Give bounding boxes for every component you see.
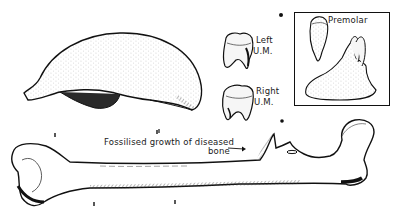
reference-dot bbox=[280, 119, 284, 123]
reference-dot bbox=[279, 13, 283, 17]
growth-label-line2: bone bbox=[208, 146, 230, 156]
femur-drawing bbox=[12, 120, 374, 206]
skullcap-drawing bbox=[24, 33, 202, 137]
right-molar-label-line2: U.M. bbox=[254, 97, 274, 107]
premolar-inset-frame bbox=[294, 12, 390, 106]
left-molar-label-line2: U.M. bbox=[253, 46, 273, 56]
left-molar-label-line1: Left bbox=[256, 35, 273, 45]
fossil-illustration: Left U.M. Right U.M. Premolar Fossilised… bbox=[0, 0, 401, 218]
left-molar-drawing bbox=[223, 33, 252, 68]
right-molar-label-line1: Right bbox=[256, 86, 279, 96]
premolar-label: Premolar bbox=[328, 15, 368, 25]
right-molar-drawing bbox=[223, 85, 254, 120]
